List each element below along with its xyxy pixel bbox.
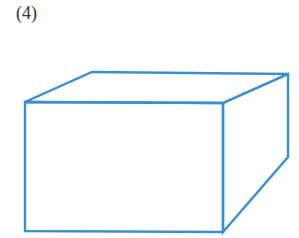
- rectangular-prism-diagram: [0, 0, 299, 238]
- front-face: [25, 102, 223, 232]
- top-face: [25, 72, 288, 103]
- right-face: [223, 74, 288, 232]
